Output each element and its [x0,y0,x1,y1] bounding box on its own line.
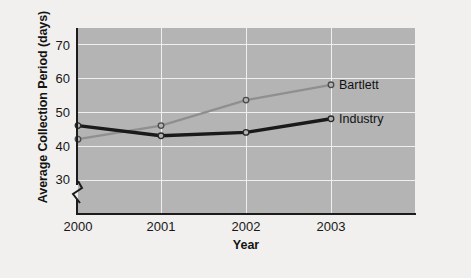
y-tick-70: 70 [24,39,70,52]
x-tick-2002: 2002 [216,219,276,234]
y-tick-50: 50 [24,106,70,119]
x-tick-2003: 2003 [301,219,361,234]
plot-area: Bartlett Industry [78,28,415,213]
x-tick-2001: 2001 [131,219,191,234]
y-tick-30: 30 [24,173,70,186]
series-label-bartlett: Bartlett [339,78,379,92]
x-axis-line [76,213,416,215]
axis-break-icon [70,181,86,203]
chart-figure: Average Collection Period (days) 70 60 5… [0,0,471,278]
series-label-industry: Industry [339,112,383,126]
x-axis-title: Year [76,238,416,252]
y-axis-line [76,28,78,185]
y-axis-tick-labels: 70 60 50 40 30 [18,0,70,278]
x-tick-2000: 2000 [48,219,108,234]
y-tick-60: 60 [24,72,70,85]
y-tick-40: 40 [24,140,70,153]
